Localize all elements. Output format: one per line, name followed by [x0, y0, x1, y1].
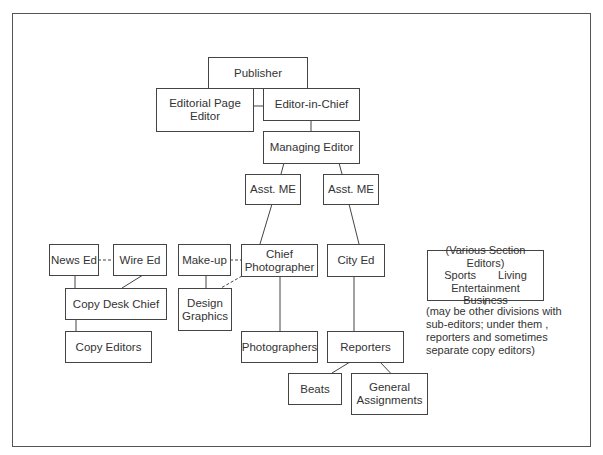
section-living: Living [498, 269, 527, 282]
node-label-line1: General [369, 381, 410, 394]
edge-reporters-beats [332, 362, 350, 373]
node-editor-in-chief: Editor-in-Chief [263, 88, 360, 121]
node-make-up: Make-up [178, 244, 231, 276]
section-entertainment: Entertainment [451, 282, 519, 295]
node-copy-desk-chief: Copy Desk Chief [65, 288, 167, 320]
node-label-line1: Design [187, 297, 223, 310]
node-asst-me-right: Asst. ME [323, 174, 379, 205]
node-label-line2: Editor [190, 110, 220, 123]
node-label-line2: Photographer [245, 261, 315, 274]
node-label: Beats [300, 383, 329, 396]
node-general-assignments: General Assignments [351, 373, 428, 415]
node-label: Copy Desk Chief [73, 298, 159, 311]
node-label: Photographers [242, 341, 317, 354]
node-reporters: Reporters [327, 331, 404, 363]
divisions-note: (may be other divisions with sub-editors… [426, 305, 576, 357]
node-beats: Beats [288, 373, 342, 405]
node-city-ed: City Ed [327, 244, 385, 277]
node-photographers: Photographers [241, 331, 318, 363]
node-managing-editor: Managing Editor [263, 131, 360, 164]
node-publisher: Publisher [208, 57, 308, 89]
edge-me-asst-left [281, 163, 284, 174]
section-sports: Sports [444, 269, 476, 282]
node-label: Asst. ME [328, 183, 374, 196]
node-label: News Ed [51, 254, 97, 267]
section-editors-title: (Various Section Editors) [428, 244, 543, 269]
node-label: City Ed [337, 254, 374, 267]
node-label-line1: Chief [266, 248, 293, 261]
edge-asst-chiefphoto [260, 204, 272, 244]
node-label: Wire Ed [120, 254, 161, 267]
edge-chiefphoto-design [221, 276, 242, 288]
note-line4: separate copy editors) [426, 344, 576, 357]
node-label: Reporters [340, 341, 391, 354]
node-design-graphics: Design Graphics [178, 288, 232, 331]
note-line1: (may be other divisions with [426, 305, 576, 318]
node-chief-photographer: Chief Photographer [241, 244, 318, 277]
node-section-editors: (Various Section Editors) Sports Living … [427, 250, 544, 301]
node-label-line1: Editorial Page [169, 97, 241, 110]
section-editors-row: Sports Living [444, 269, 527, 282]
node-label: Publisher [234, 67, 282, 80]
node-label: Asst. ME [250, 183, 296, 196]
node-label: Managing Editor [270, 141, 354, 154]
edge-me-asst-right [339, 163, 342, 174]
node-label: Make-up [182, 254, 227, 267]
node-label-line2: Graphics [182, 310, 228, 323]
node-label: Editor-in-Chief [275, 98, 349, 111]
node-copy-editors: Copy Editors [65, 331, 152, 363]
note-line2: sub-editors; under them , [426, 318, 576, 331]
edge-asst-cityed [349, 204, 359, 244]
node-label: Copy Editors [76, 341, 142, 354]
node-editorial-page-editor: Editorial Page Editor [156, 88, 254, 132]
node-asst-me-left: Asst. ME [245, 174, 301, 205]
node-wire-ed: Wire Ed [113, 244, 167, 276]
note-line3: reporters and sometimes [426, 331, 576, 344]
node-label-line2: Assignments [357, 394, 423, 407]
node-news-ed: News Ed [49, 244, 99, 276]
edge-wire-copydesk [122, 275, 143, 288]
